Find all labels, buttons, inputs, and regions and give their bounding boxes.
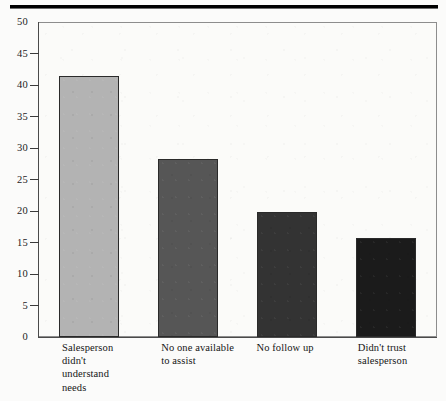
y-axis-tick	[30, 274, 39, 275]
y-axis-tick-label: 25	[0, 175, 28, 185]
bar-1[interactable]	[59, 76, 119, 337]
x-axis-labels: Salesperson didn't understand needsNo on…	[38, 341, 437, 399]
y-axis-tick-label: 20	[0, 206, 28, 216]
y-axis-tick-label: 50	[0, 17, 28, 27]
y-axis-tick-label-text: 5	[2, 301, 28, 311]
y-axis-tick-label-text: 45	[2, 49, 28, 59]
y-axis-tick	[30, 148, 39, 149]
y-axis-tick	[30, 242, 39, 243]
bar-texture	[357, 239, 415, 336]
x-axis-label-1: Salesperson didn't understand needs	[62, 341, 113, 394]
y-axis-tick-label-text: 30	[2, 143, 28, 153]
y-axis-tick-label-text: 20	[2, 206, 28, 216]
y-axis-tick	[30, 116, 39, 117]
y-axis-tick-label-text: 50	[2, 17, 28, 27]
x-axis-label-2: No one available to assist	[161, 341, 234, 367]
y-axis-tick-label-text: 15	[2, 238, 28, 248]
bar-3[interactable]	[257, 212, 317, 337]
x-axis-line	[38, 337, 437, 338]
y-axis-tick-label-text: 10	[2, 269, 28, 279]
x-axis-label-4: Didn't trust salesperson	[358, 341, 408, 367]
y-axis-tick	[30, 53, 39, 54]
y-axis-tick-label: 10	[0, 269, 28, 279]
y-axis-tick-label: 35	[0, 112, 28, 122]
y-axis-tick-label: 30	[0, 143, 28, 153]
y-axis-tick	[30, 179, 39, 180]
y-axis-tick-label: 5	[0, 301, 28, 311]
bar-texture	[258, 213, 316, 336]
y-axis-tick-label: 40	[0, 80, 28, 90]
y-axis-tick-label: 15	[0, 238, 28, 248]
y-axis-tick-label-text: 25	[2, 175, 28, 185]
x-axis-label-3: No follow up	[257, 341, 314, 354]
bar-4[interactable]	[356, 238, 416, 337]
top-rule-shadow	[10, 8, 438, 9]
y-axis-tick	[30, 85, 39, 86]
y-axis-tick-label: 0	[0, 332, 28, 342]
y-axis-tick-label: 45	[0, 49, 28, 59]
y-axis-tick	[30, 305, 39, 306]
bars-container	[39, 23, 436, 337]
bar-2[interactable]	[158, 159, 218, 337]
y-axis-tick-label-text: 40	[2, 80, 28, 90]
bar-texture	[60, 77, 118, 336]
y-axis-tick-label-text: 0	[2, 332, 28, 342]
y-axis-tick-label-text: 35	[2, 112, 28, 122]
bar-texture	[159, 160, 217, 336]
chart-figure: 05101520253035404550 Salesperson didn't …	[0, 0, 446, 401]
y-axis-tick	[30, 211, 39, 212]
